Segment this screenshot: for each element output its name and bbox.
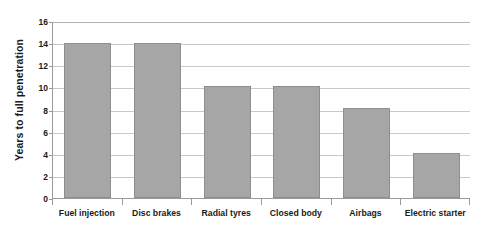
bar	[343, 108, 390, 198]
x-axis-tick-mark	[52, 199, 53, 205]
y-axis-tick-label: 0	[26, 195, 48, 204]
y-axis-tick-label: 10	[26, 84, 48, 93]
y-axis-tick-label: 8	[26, 106, 48, 115]
x-axis-category-label: Electric starter	[400, 206, 470, 228]
x-axis-category-label: Closed body	[261, 206, 331, 228]
x-axis-tick-labels: Fuel injectionDisc brakesRadial tyresClo…	[52, 206, 470, 228]
bar	[273, 86, 320, 198]
bar	[64, 43, 111, 198]
x-axis-tick-mark	[400, 199, 401, 205]
x-axis-category-label: Radial tyres	[191, 206, 261, 228]
y-axis-tick-label: 6	[26, 128, 48, 137]
x-axis-tick-mark	[261, 199, 262, 205]
y-axis-tick-label: 12	[26, 62, 48, 71]
y-axis-title-text: Years to full penetration	[13, 38, 25, 160]
plot-area	[52, 22, 470, 199]
bar	[413, 153, 460, 198]
y-axis-tick-label: 16	[26, 18, 48, 27]
y-axis-tick-labels: 0246810121416	[26, 22, 48, 199]
y-axis-tick-label: 2	[26, 173, 48, 182]
x-axis-category-label: Fuel injection	[52, 206, 122, 228]
x-axis-category-label: Disc brakes	[122, 206, 192, 228]
y-axis-tick-label: 14	[26, 40, 48, 49]
x-axis-category-label: Airbags	[331, 206, 401, 228]
bars-layer	[53, 22, 470, 198]
bar	[134, 43, 181, 198]
bar	[204, 86, 251, 198]
bar-chart: Years to full penetration 0246810121416 …	[0, 0, 486, 236]
x-axis-tick-marks	[52, 199, 470, 206]
y-axis-tick-label: 4	[26, 151, 48, 160]
x-axis-tick-mark	[469, 199, 470, 205]
x-axis-tick-mark	[191, 199, 192, 205]
x-axis-tick-mark	[122, 199, 123, 205]
x-axis-tick-mark	[331, 199, 332, 205]
